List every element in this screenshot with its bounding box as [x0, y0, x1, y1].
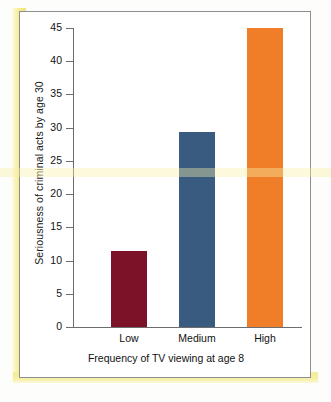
y-axis-tick-label-35: 35 — [50, 87, 62, 99]
y-axis-tick-label-30: 30 — [50, 121, 62, 133]
bar-chart-plot-area: Seriousness of criminal acts by age 30 0… — [20, 12, 310, 377]
y-axis-tick-45: 45 — [66, 28, 73, 29]
y-axis-tick-5: 5 — [66, 294, 73, 295]
y-axis-tick-40: 40 — [66, 61, 73, 62]
y-axis-tick-label-40: 40 — [50, 54, 62, 66]
x-axis-line — [73, 327, 302, 328]
y-axis-tick-20: 20 — [66, 194, 73, 195]
x-axis-label-high: High — [225, 332, 305, 344]
y-axis-title: Seriousness of criminal acts by age 30 — [33, 43, 45, 303]
y-axis-tick-0: 0 — [66, 327, 73, 328]
y-axis-tick-35: 35 — [66, 94, 73, 95]
y-axis-tick-label-0: 0 — [56, 320, 62, 332]
y-axis-tick-25: 25 — [66, 161, 73, 162]
bar-low[interactable] — [111, 251, 147, 327]
y-axis-tick-label-25: 25 — [50, 154, 62, 166]
y-axis-tick-30: 30 — [66, 128, 73, 129]
y-axis-line — [73, 28, 74, 328]
y-axis-tick-label-15: 15 — [50, 220, 62, 232]
bar-medium[interactable] — [179, 132, 215, 327]
x-axis-title: Frequency of TV viewing at age 8 — [20, 352, 312, 364]
y-axis-tick-15: 15 — [66, 227, 73, 228]
y-axis-tick-10: 10 — [66, 261, 73, 262]
y-axis-tick-label-10: 10 — [50, 254, 62, 266]
y-axis-tick-label-20: 20 — [50, 187, 62, 199]
y-axis-tick-label-5: 5 — [56, 287, 62, 299]
bar-high[interactable] — [247, 28, 283, 327]
chart-frame: Seriousness of criminal acts by age 30 0… — [19, 11, 311, 378]
y-axis-tick-label-45: 45 — [50, 21, 62, 33]
